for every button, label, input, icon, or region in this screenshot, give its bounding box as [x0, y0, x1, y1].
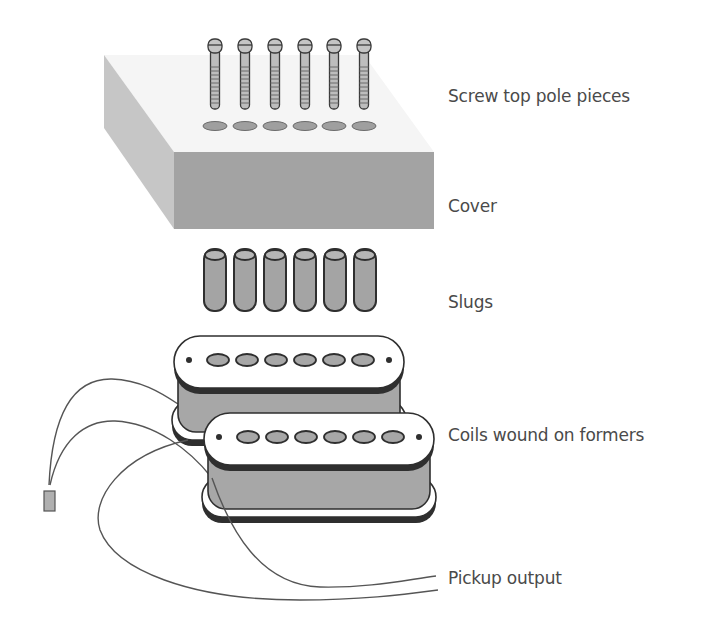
label-cover: Cover	[448, 196, 497, 216]
coil-front	[202, 413, 436, 523]
output-connector	[44, 491, 55, 511]
cover-front-face	[174, 152, 434, 229]
label-coils-wound-on-formers: Coils wound on formers	[448, 425, 644, 445]
label-pickup-output: Pickup output	[448, 568, 562, 588]
label-screw-top-pole-pieces: Screw top pole pieces	[448, 86, 630, 106]
wire-top-coil	[49, 379, 178, 485]
cover-part	[104, 55, 434, 229]
label-slugs: Slugs	[448, 292, 493, 312]
slugs-part	[204, 249, 376, 311]
